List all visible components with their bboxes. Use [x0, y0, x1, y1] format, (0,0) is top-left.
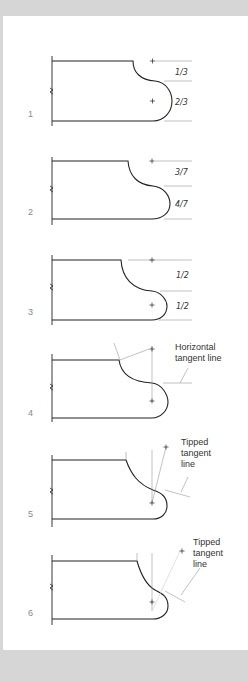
ogee-diagram: 1 2 3 4 5 6 1/3 2/3 3/7 4/7 1/2 1/2 Hori…: [0, 0, 248, 682]
callout-label: Tipped: [193, 537, 220, 547]
callout-label: Tipped: [181, 437, 208, 447]
step-1-profile: [50, 56, 192, 126]
step-4-profile: [50, 343, 192, 422]
step-number-1: 1: [28, 109, 33, 119]
fraction-label: 3/7: [175, 168, 189, 177]
step-number-2: 2: [28, 207, 33, 217]
fraction-label: 1/2: [176, 271, 189, 280]
step-number-4: 4: [28, 408, 33, 418]
step-6-profile: [50, 549, 200, 626]
callout-label: tangent: [181, 448, 212, 458]
step-2-profile: [50, 157, 192, 225]
fraction-label: 1/2: [176, 302, 189, 311]
fraction-label: 1/3: [175, 68, 188, 77]
step-5-profile: [50, 445, 190, 528]
callout-label: Horizontal: [175, 342, 216, 352]
step-number-3: 3: [28, 307, 33, 317]
fraction-label: 2/3: [175, 98, 188, 107]
fraction-label: 4/7: [175, 200, 189, 209]
callout-label: line: [193, 559, 207, 569]
callout-label: tangent line: [175, 353, 222, 363]
callout-label: tangent: [193, 548, 224, 558]
callout-label: line: [181, 459, 195, 469]
step-3-profile: [50, 255, 192, 325]
step-number-5: 5: [28, 509, 33, 519]
step-number-6: 6: [28, 608, 33, 618]
